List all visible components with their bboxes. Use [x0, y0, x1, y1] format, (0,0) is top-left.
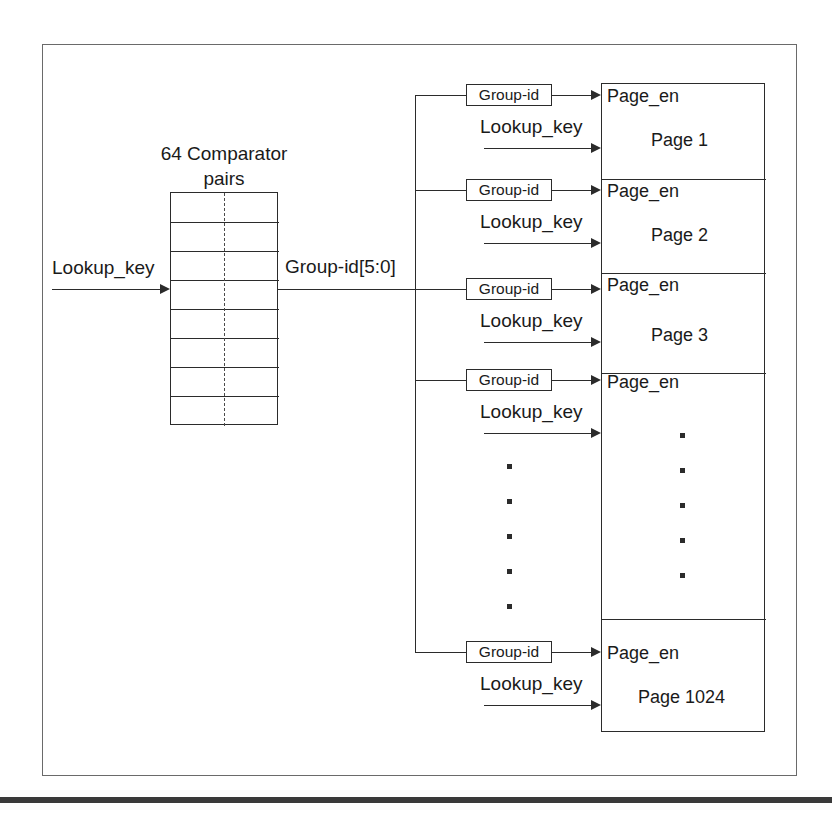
- comparator-title: 64 Comparator pairs: [124, 141, 324, 191]
- lookup-key-arrowhead: [591, 700, 601, 710]
- branch-stub-wire: [415, 289, 467, 290]
- page-footer-bar: [0, 797, 832, 803]
- page-enable-label: Page_en: [607, 643, 679, 664]
- page-divider: [602, 179, 766, 180]
- page-ellipsis-dot: [680, 468, 685, 473]
- lookup-key-label: Lookup_key: [480, 117, 582, 136]
- group-id-box: Group-id: [466, 369, 552, 391]
- bus-ellipsis-dot: [507, 499, 512, 504]
- comparator-input-wire: [52, 289, 162, 290]
- group-id-box: Group-id: [466, 641, 552, 663]
- comparator-input-label: Lookup_key: [52, 258, 154, 277]
- branch-stub-wire: [415, 190, 467, 191]
- page-name-label: Page 2: [651, 225, 708, 246]
- lookup-key-label: Lookup_key: [480, 402, 582, 421]
- comparator-title-line1: 64 Comparator: [124, 141, 324, 166]
- page-divider: [602, 619, 766, 620]
- comparator-center-dashed-line: [224, 193, 225, 426]
- group-id-to-page-wire: [552, 380, 594, 381]
- group-id-to-page-wire: [552, 95, 594, 96]
- page-enable-label: Page_en: [607, 275, 679, 296]
- comparator-row-divider: [171, 309, 279, 310]
- page-divider: [602, 273, 766, 274]
- page-name-label: Page 1: [651, 130, 708, 151]
- bus-ellipsis-dot: [507, 534, 512, 539]
- lookup-key-wire: [484, 342, 594, 343]
- page-ellipsis-dot: [680, 433, 685, 438]
- page-enable-label: Page_en: [607, 181, 679, 202]
- lookup-key-wire: [484, 705, 594, 706]
- bus-ellipsis-dot: [507, 569, 512, 574]
- page-enable-arrowhead: [591, 90, 601, 100]
- lookup-key-wire: [484, 243, 594, 244]
- lookup-key-label: Lookup_key: [480, 674, 582, 693]
- comparator-row-divider: [171, 222, 279, 223]
- group-id-to-page-wire: [552, 190, 594, 191]
- group-id-distribution-bus: [415, 95, 416, 652]
- group-id-box: Group-id: [466, 84, 552, 106]
- group-id-to-page-wire: [552, 289, 594, 290]
- page-enable-arrowhead: [591, 375, 601, 385]
- lookup-key-wire: [484, 433, 594, 434]
- page-name-label: Page 3: [651, 325, 708, 346]
- page-enable-label: Page_en: [607, 372, 679, 393]
- comparator-row-divider: [171, 396, 279, 397]
- page-ellipsis-dot: [680, 538, 685, 543]
- page-enable-arrowhead: [591, 185, 601, 195]
- page-name-label: Page 1024: [638, 687, 725, 708]
- comparator-row-divider: [171, 251, 279, 252]
- comparator-block: [170, 192, 278, 425]
- lookup-key-arrowhead: [591, 428, 601, 438]
- group-id-to-page-wire: [552, 652, 594, 653]
- comparator-output-label: Group-id[5:0]: [285, 257, 396, 276]
- comparator-row-divider: [171, 338, 279, 339]
- lookup-key-arrowhead: [591, 238, 601, 248]
- page-ellipsis-dot: [680, 503, 685, 508]
- lookup-key-wire: [484, 148, 594, 149]
- comparator-row-divider: [171, 280, 279, 281]
- comparator-input-arrowhead: [160, 284, 170, 294]
- comparator-output-wire: [278, 289, 416, 290]
- branch-stub-wire: [415, 95, 467, 96]
- bus-ellipsis-dot: [507, 604, 512, 609]
- page-enable-label: Page_en: [607, 86, 679, 107]
- group-id-box: Group-id: [466, 278, 552, 300]
- diagram-canvas: 64 Comparator pairs Lookup_key Group-id[…: [0, 0, 832, 821]
- lookup-key-label: Lookup_key: [480, 212, 582, 231]
- lookup-key-arrowhead: [591, 143, 601, 153]
- branch-stub-wire: [415, 652, 467, 653]
- comparator-row-divider: [171, 367, 279, 368]
- page-enable-arrowhead: [591, 284, 601, 294]
- page-ellipsis-dot: [680, 573, 685, 578]
- bus-ellipsis-dot: [507, 464, 512, 469]
- branch-stub-wire: [415, 380, 467, 381]
- group-id-box: Group-id: [466, 179, 552, 201]
- comparator-title-line2: pairs: [124, 166, 324, 191]
- lookup-key-arrowhead: [591, 337, 601, 347]
- lookup-key-label: Lookup_key: [480, 311, 582, 330]
- page-enable-arrowhead: [591, 647, 601, 657]
